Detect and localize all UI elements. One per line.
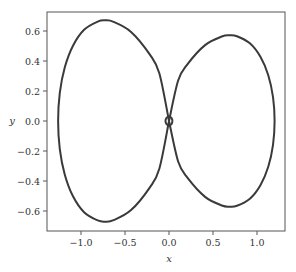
y-axis-ticks: 0.60.40.20.0−0.2−0.4−0.6 (17, 26, 47, 217)
x-axis-ticks: −1.0−0.50.00.51.0 (69, 231, 264, 248)
x-tick-label: 0.0 (161, 237, 176, 248)
figure: −1.0−0.50.00.51.0 0.60.40.20.0−0.2−0.4−0… (0, 0, 296, 272)
x-tick-label: 0.5 (205, 237, 220, 248)
x-axis-label: x (166, 253, 172, 264)
y-axis-label: y (8, 115, 15, 126)
x-tick-label: 1.0 (249, 237, 264, 248)
y-tick-label: 0.4 (25, 56, 40, 67)
y-tick-label: −0.4 (17, 176, 40, 187)
x-tick-label: −1.0 (69, 237, 92, 248)
x-tick-label: −0.5 (113, 237, 136, 248)
y-tick-label: 0.6 (25, 26, 40, 37)
y-tick-label: −0.2 (17, 146, 40, 157)
y-tick-label: −0.6 (17, 206, 40, 217)
y-tick-label: 0.2 (25, 86, 40, 97)
y-tick-label: 0.0 (25, 116, 40, 127)
